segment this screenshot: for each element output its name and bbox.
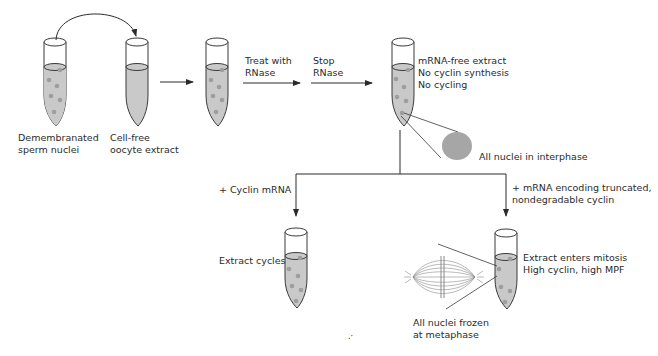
cell-cycle-extract-diagram [0, 0, 658, 356]
nucleus-dot [52, 110, 57, 115]
label-branch-right: + mRNA encoding truncated, nondegradable… [512, 182, 651, 206]
spindle-icon [404, 256, 484, 298]
label-oocyte-extract: Cell-free oocyte extract [110, 132, 179, 156]
label-treat-rnase: Treat with RNase [245, 55, 292, 79]
tube-mrna-free-extract [392, 38, 414, 126]
nucleus-dot [58, 98, 63, 103]
metaphase-spindle-callout [404, 244, 497, 309]
label-sperm-nuclei: Demembranated sperm nuclei [18, 132, 99, 156]
interphase-nucleus [442, 132, 472, 160]
tube-cycling-extract [285, 228, 307, 308]
transfer-arrow [56, 14, 136, 40]
tube-oocyte-extract [126, 38, 148, 126]
nucleus-dot [55, 84, 60, 89]
tube-mitotic-extract [495, 229, 517, 309]
nucleus-dot [47, 78, 52, 83]
label-branch-left: + Cyclin mRNA [219, 184, 291, 196]
label-stop-rnase: Stop RNase [313, 55, 343, 79]
label-extract-cycles: Extract cycles [219, 255, 286, 267]
interphase-nucleus-callout [401, 113, 472, 160]
footer-mark: .· [348, 331, 353, 343]
label-metaphase: All nuclei frozen at metaphase [413, 317, 489, 341]
tube-combined-extract [206, 38, 228, 126]
tube-sperm-nuclei [43, 38, 67, 126]
nucleus-dot [58, 68, 63, 73]
nucleus-dot [49, 94, 54, 99]
label-mrna-free-extract: mRNA-free extract No cyclin synthesis No… [418, 55, 509, 91]
label-mitotic-extract: Extract enters mitosis High cyclin, high… [523, 252, 627, 276]
label-interphase: All nuclei in interphase [479, 151, 588, 163]
